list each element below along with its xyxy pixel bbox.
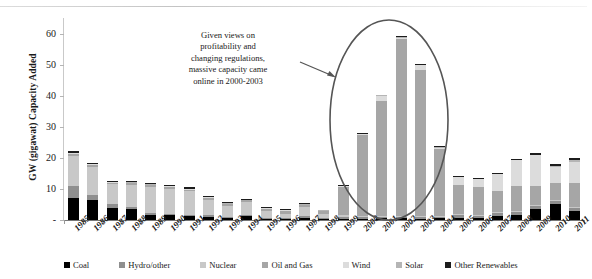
bar-column[interactable] — [469, 18, 488, 220]
bar-column[interactable] — [122, 18, 141, 220]
bar-segment — [299, 207, 310, 216]
stacked-bar — [126, 181, 137, 220]
bar-segment — [126, 185, 137, 207]
annotation-line: online in 2000-2003 — [152, 76, 304, 87]
bar-segment — [492, 191, 503, 213]
stacked-bar — [569, 158, 580, 220]
stacked-bar — [164, 185, 175, 220]
legend-swatch — [262, 262, 268, 268]
y-axis-label: GW (gigawat) Capacity Added — [28, 27, 38, 207]
annotation-line: massive capacity came — [152, 64, 304, 75]
legend-label: Solar — [405, 260, 423, 270]
chart-legend: CoalHydro/otherNuclearOil and GasWindSol… — [64, 258, 584, 272]
bar-segment — [434, 149, 445, 216]
bar-segment — [87, 167, 98, 195]
bar-segment — [68, 186, 79, 198]
bar-segment — [357, 135, 368, 216]
stacked-bar — [492, 173, 503, 221]
legend-item[interactable]: Other Renewables — [445, 260, 517, 270]
bar-segment — [453, 185, 464, 215]
legend-item[interactable]: Solar — [396, 260, 423, 270]
bar-column[interactable] — [83, 18, 102, 220]
bar-segment — [550, 167, 561, 183]
bar-segment — [184, 191, 195, 214]
legend-swatch — [64, 262, 70, 268]
bar-group — [64, 18, 584, 220]
legend-swatch — [445, 262, 451, 268]
stacked-bar — [68, 151, 79, 220]
stacked-bar — [145, 183, 156, 220]
stacked-bar — [530, 153, 541, 220]
legend-label: Coal — [73, 260, 89, 270]
stacked-bar — [511, 159, 522, 220]
bar-segment — [68, 198, 79, 220]
bar-segment — [338, 187, 349, 215]
plot-area — [64, 18, 584, 220]
legend-swatch — [343, 262, 349, 268]
legend-swatch — [200, 262, 206, 268]
stacked-bar — [203, 196, 214, 220]
bar-segment — [511, 160, 522, 186]
stacked-bar — [184, 187, 195, 220]
bar-segment — [241, 202, 252, 214]
bar-segment — [569, 162, 580, 183]
bar-segment — [396, 39, 407, 216]
legend-swatch — [119, 262, 125, 268]
top-cut-line — [0, 6, 587, 7]
y-tick-label: 40 — [30, 91, 56, 101]
bar-column[interactable] — [449, 18, 468, 220]
bar-column[interactable] — [565, 18, 584, 220]
legend-label: Wind — [352, 260, 371, 270]
bar-column[interactable] — [546, 18, 565, 220]
bar-column[interactable] — [103, 18, 122, 220]
bar-segment — [492, 174, 503, 190]
bar-segment — [222, 206, 233, 217]
legend-item[interactable]: Hydro/other — [119, 260, 170, 270]
bar-segment — [473, 179, 484, 187]
bar-segment — [415, 70, 426, 216]
legend-item[interactable]: Wind — [343, 260, 371, 270]
stacked-bar — [376, 95, 387, 221]
bar-segment — [164, 189, 175, 214]
bar-column[interactable] — [411, 18, 430, 220]
y-tick-label: 60 — [30, 29, 56, 39]
bar-column[interactable] — [372, 18, 391, 220]
bar-column[interactable] — [353, 18, 372, 220]
bar-column[interactable] — [430, 18, 449, 220]
annotation-line: profitability and — [152, 41, 304, 52]
stacked-bar — [107, 181, 118, 220]
bar-segment — [530, 155, 541, 186]
bar-segment — [453, 177, 464, 184]
y-tick-label: 50 — [30, 60, 56, 70]
legend-label: Other Renewables — [454, 260, 517, 270]
bar-column[interactable] — [334, 18, 353, 220]
stacked-bar — [396, 36, 407, 220]
bar-column[interactable] — [64, 18, 83, 220]
legend-item[interactable]: Coal — [64, 260, 89, 270]
annotation-text: Given views onprofitability andchanging … — [152, 30, 304, 87]
stacked-bar — [434, 146, 445, 220]
bar-column[interactable] — [392, 18, 411, 220]
legend-label: Oil and Gas — [271, 260, 312, 270]
stacked-bar — [415, 64, 426, 220]
legend-label: Hydro/other — [128, 260, 170, 270]
bar-column[interactable] — [526, 18, 545, 220]
legend-item[interactable]: Nuclear — [200, 260, 236, 270]
stacked-bar — [550, 164, 561, 220]
stacked-bar — [338, 185, 349, 220]
legend-item[interactable]: Oil and Gas — [262, 260, 312, 270]
bar-segment — [107, 184, 118, 204]
stacked-bar — [87, 163, 98, 220]
y-tick-label: 30 — [30, 122, 56, 132]
annotation-line: changing regulations, — [152, 53, 304, 64]
bar-column[interactable] — [507, 18, 526, 220]
bar-segment — [68, 156, 79, 186]
bar-column[interactable] — [314, 18, 333, 220]
stacked-bar — [453, 176, 464, 220]
bar-column[interactable] — [488, 18, 507, 220]
legend-label: Nuclear — [209, 260, 236, 270]
bar-segment — [203, 200, 214, 216]
bar-segment — [569, 183, 580, 206]
bar-segment — [145, 187, 156, 213]
